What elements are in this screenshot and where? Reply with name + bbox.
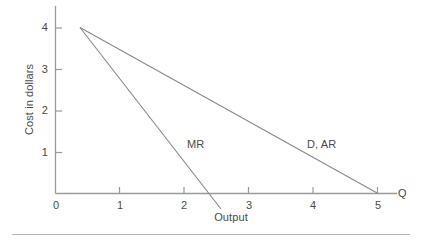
x-tick-label-5: 5 <box>370 200 386 211</box>
x-tick-label-0: 0 <box>48 200 64 211</box>
x-tick-label-1: 1 <box>112 200 128 211</box>
y-axis-title: Cost in dollars <box>24 64 35 135</box>
y-axis-ticks <box>56 28 63 153</box>
series-label-mr: MR <box>187 139 204 150</box>
footer-divider <box>12 234 410 235</box>
series-label-demand-ar: D, AR <box>307 139 336 150</box>
x-tick-label-3: 3 <box>241 200 257 211</box>
x-axis-title: Output <box>196 212 266 223</box>
demand-ar-line <box>80 28 378 194</box>
chart-figure: 1 2 3 4 0 1 2 3 4 5 Cost in dollars Outp… <box>0 0 423 241</box>
marginal-revenue-line <box>80 28 221 210</box>
y-tick-label-1: 1 <box>34 147 48 158</box>
y-tick-label-3: 3 <box>34 64 48 75</box>
y-tick-label-4: 4 <box>34 22 48 33</box>
x-axis-end-label-q: Q <box>398 188 407 199</box>
y-tick-label-2: 2 <box>34 105 48 116</box>
x-tick-label-2: 2 <box>176 200 192 211</box>
x-axis-ticks <box>120 187 378 194</box>
x-tick-label-4: 4 <box>305 200 321 211</box>
